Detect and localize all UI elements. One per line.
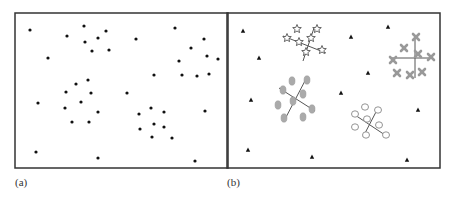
cross-icon: [394, 70, 400, 76]
data-point: [104, 29, 107, 32]
data-point: [138, 127, 141, 130]
data-point: [96, 36, 99, 39]
cross-icon: [407, 72, 413, 78]
data-point: [134, 37, 137, 40]
oval-icon: [309, 105, 315, 113]
data-point: [82, 24, 85, 27]
data-point: [28, 28, 31, 31]
cross-icon: [413, 34, 419, 40]
figure-canvas: [0, 0, 453, 197]
panel-b-label: (b): [227, 176, 240, 188]
data-point: [83, 40, 86, 43]
oval-icon: [304, 76, 310, 84]
noise-triangle-icon: [310, 155, 314, 159]
star-icon: [293, 25, 302, 33]
star-icon: [307, 34, 316, 42]
oval-icon: [300, 90, 306, 98]
panel-b-frame: [227, 13, 440, 168]
data-point: [149, 106, 152, 109]
data-point: [96, 110, 99, 113]
cross-icon: [401, 45, 407, 51]
data-point: [203, 109, 206, 112]
circle-icon: [363, 132, 370, 138]
noise-triangle-icon: [249, 98, 253, 102]
circle-icon: [364, 116, 371, 122]
data-point: [195, 74, 198, 77]
noise-triangle-icon: [416, 108, 420, 112]
data-point: [207, 72, 210, 75]
data-point: [34, 150, 37, 153]
cross-icon: [415, 51, 421, 57]
data-point: [96, 156, 99, 159]
noise-triangle-icon: [349, 35, 353, 39]
data-point: [46, 56, 49, 59]
noise-triangle-icon: [241, 29, 245, 33]
data-point: [107, 48, 110, 51]
noise-triangle-icon: [386, 25, 390, 29]
panel-b-clustered-points: [227, 13, 440, 168]
data-point: [193, 159, 196, 162]
data-point: [36, 101, 39, 104]
star-icon: [283, 34, 292, 42]
cluster-ovals: [275, 76, 315, 122]
circle-icon: [376, 122, 383, 128]
oval-icon: [290, 97, 296, 105]
data-point: [70, 120, 73, 123]
noise-triangle-icon: [405, 158, 409, 162]
data-point: [64, 90, 67, 93]
data-point: [150, 135, 153, 138]
data-point: [177, 59, 180, 62]
data-point: [205, 54, 208, 57]
circle-icon: [362, 104, 369, 110]
data-point: [180, 73, 183, 76]
oval-icon: [275, 101, 281, 109]
noise-triangle-icon: [246, 148, 250, 152]
data-point: [89, 91, 92, 94]
data-point: [202, 37, 205, 40]
cluster-circles: [352, 104, 390, 138]
data-point: [90, 49, 93, 52]
circle-icon: [383, 132, 390, 138]
data-point: [79, 100, 82, 103]
noise-triangle-icon: [339, 91, 343, 95]
data-point: [216, 57, 219, 60]
data-point: [162, 125, 165, 128]
data-point: [63, 106, 66, 109]
oval-icon: [281, 114, 287, 122]
cluster-crosses: [390, 34, 434, 78]
data-point: [152, 73, 155, 76]
data-point: [86, 78, 89, 81]
noise-triangle-icon: [257, 56, 261, 60]
noise-triangle-icon: [366, 71, 370, 75]
data-point: [74, 82, 77, 85]
data-point: [152, 122, 155, 125]
data-point: [189, 46, 192, 49]
data-point: [87, 120, 90, 123]
data-point: [173, 26, 176, 29]
cluster-stars: [283, 25, 327, 62]
star-icon: [295, 38, 304, 46]
data-point: [170, 136, 173, 139]
panel-a-label: (a): [15, 176, 27, 188]
star-icon: [313, 25, 322, 33]
data-point: [65, 34, 68, 37]
oval-icon: [280, 86, 286, 94]
data-point: [162, 110, 165, 113]
panel-a-frame: [15, 13, 228, 168]
cross-icon: [428, 54, 434, 60]
oval-icon: [300, 113, 306, 121]
panel-a-uniform-points: [15, 13, 228, 168]
cross-icon: [419, 69, 425, 75]
circle-icon: [375, 107, 382, 113]
circle-icon: [352, 111, 359, 117]
data-point: [137, 112, 140, 115]
data-point: [125, 91, 128, 94]
star-icon: [302, 48, 311, 56]
circle-icon: [352, 124, 359, 130]
oval-icon: [289, 77, 295, 85]
